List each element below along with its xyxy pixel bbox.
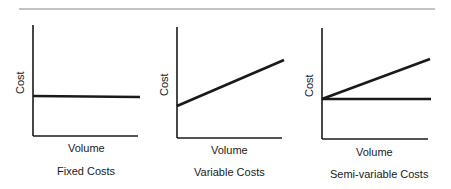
cost-behavior-diagram: Cost Volume Fixed Costs Cost Volume Vari…: [0, 0, 451, 189]
y-axis-label: Cost: [14, 71, 26, 94]
chart-title: Variable Costs: [194, 166, 265, 178]
x-axis-label: Volume: [211, 144, 248, 156]
y-axis-label: Cost: [158, 73, 170, 96]
x-axis-label: Volume: [356, 146, 393, 158]
semi-variable-cost-line: [322, 59, 430, 99]
chart-title: Semi-variable Costs: [330, 168, 429, 180]
fixed-costs-chart: Cost Volume Fixed Costs: [14, 25, 140, 177]
variable-cost-line: [177, 60, 284, 106]
chart-title: Fixed Costs: [57, 165, 116, 177]
semi-variable-costs-chart: Cost Volume Semi-variable Costs: [303, 28, 431, 180]
x-axis-label: Volume: [68, 142, 105, 154]
fixed-cost-line: [33, 96, 140, 97]
variable-costs-chart: Cost Volume Variable Costs: [158, 27, 284, 178]
y-axis-label: Cost: [303, 74, 315, 97]
